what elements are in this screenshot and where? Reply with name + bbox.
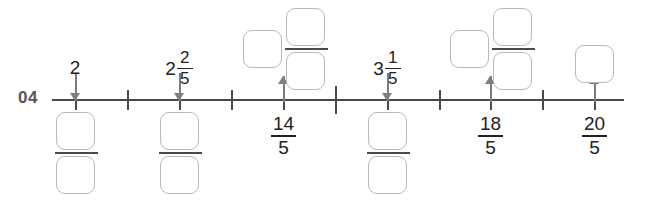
label-2-2-5-numerator: 2	[178, 49, 191, 67]
fraction-bar-icon	[492, 48, 535, 50]
tick-mark-3	[335, 86, 337, 114]
label-14-5: 14 5	[261, 114, 305, 158]
answer-box-denominator[interactable]	[368, 156, 407, 194]
label-3-1-5-whole: 3	[373, 59, 384, 78]
answer-box-denominator[interactable]	[286, 52, 325, 90]
label-2-2-5-denominator: 5	[178, 70, 191, 88]
problem-number: 04	[18, 88, 38, 108]
label-2-text: 2	[70, 57, 81, 78]
answer-box-denominator[interactable]	[493, 52, 532, 90]
label-14-5-denominator: 5	[276, 138, 291, 158]
answer-box-denominator[interactable]	[56, 156, 95, 194]
answer-fraction-part[interactable]	[286, 8, 327, 90]
label-3-1-5-numerator: 1	[386, 49, 399, 67]
answer-box-denominator[interactable]	[160, 156, 199, 194]
fraction-bar-icon	[285, 48, 328, 50]
fraction-bar-icon	[367, 152, 410, 154]
label-2-2-5: 2 2 5	[155, 49, 203, 88]
number-line-axis	[52, 99, 624, 101]
worksheet-number-line-exercise: 04 2 2 2 5	[0, 0, 646, 200]
answer-fraction-part[interactable]	[493, 8, 534, 90]
answer-mixed-above-14-5[interactable]	[243, 8, 327, 90]
fraction-bar-icon	[55, 152, 98, 154]
answer-box-whole[interactable]	[243, 30, 282, 68]
answer-box-numerator[interactable]	[368, 112, 407, 150]
label-20-5-denominator: 5	[587, 138, 602, 158]
answer-box-whole-above-20-5[interactable]	[575, 45, 614, 83]
answer-box-numerator[interactable]	[286, 8, 325, 46]
fraction-bar-icon	[159, 152, 202, 154]
label-3-1-5: 3 1 5	[363, 49, 411, 88]
answer-fraction-below-3-1-5[interactable]	[368, 112, 409, 194]
answer-mixed-above-18-5[interactable]	[450, 8, 534, 90]
label-18-5-numerator: 18	[478, 114, 503, 134]
answer-box-numerator[interactable]	[493, 8, 532, 46]
answer-fraction-below-2-2-5[interactable]	[160, 112, 201, 194]
answer-box-numerator[interactable]	[56, 112, 95, 150]
label-18-5: 18 5	[468, 114, 512, 158]
tick-mark-19-5	[542, 90, 544, 110]
label-2-2-5-whole: 2	[165, 59, 176, 78]
label-3-1-5-denominator: 5	[386, 70, 399, 88]
label-20-5-numerator: 20	[582, 114, 607, 134]
answer-fraction-below-2[interactable]	[56, 112, 97, 194]
answer-box-whole[interactable]	[450, 30, 489, 68]
tick-mark-13-5	[231, 90, 233, 110]
label-20-5: 20 5	[572, 114, 616, 158]
tick-mark-11-5	[127, 90, 129, 110]
tick-mark-17-5	[439, 90, 441, 110]
label-2: 2	[65, 58, 85, 77]
label-18-5-denominator: 5	[483, 138, 498, 158]
answer-box-numerator[interactable]	[160, 112, 199, 150]
label-14-5-numerator: 14	[271, 114, 296, 134]
